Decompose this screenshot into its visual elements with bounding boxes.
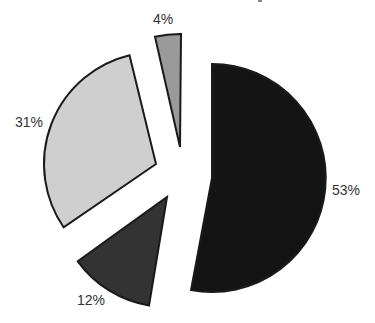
pie-slices (44, 34, 326, 306)
slice-label-4-percent: 4% (153, 11, 173, 27)
pie-chart: 53%12%31%4% (0, 0, 375, 323)
slice-label-12-percent: 12% (77, 292, 105, 308)
pie-slice-12-percent (78, 197, 167, 306)
slice-label-53-percent: 53% (332, 182, 360, 198)
pie-slice-53-percent (191, 64, 326, 292)
slice-label-31-percent: 31% (15, 114, 43, 130)
pie-slice-31-percent (44, 55, 156, 227)
pie-slice-4-percent (155, 34, 181, 147)
